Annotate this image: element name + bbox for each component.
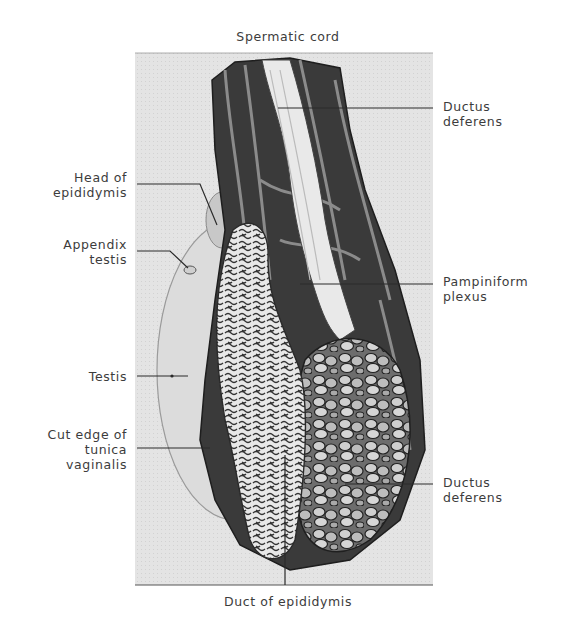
- label-testis: Testis: [20, 369, 127, 384]
- label-spermatic-cord: Spermatic cord: [200, 29, 376, 44]
- label-head-of-epididymis: Head of epididymis: [20, 170, 127, 200]
- label-appendix-testis: Appendix testis: [20, 237, 127, 267]
- label-pampiniform-plexus: Pampiniform plexus: [443, 274, 568, 304]
- label-duct-of-epididymis: Duct of epididymis: [190, 594, 386, 609]
- anatomy-figure: Spermatic cord Head of epididymis Append…: [0, 0, 576, 630]
- label-cut-edge-tunica-vaginalis: Cut edge of tunica vaginalis: [10, 427, 127, 472]
- label-ductus-deferens-upper: Ductus deferens: [443, 99, 568, 129]
- label-ductus-deferens-lower: Ductus deferens: [443, 475, 568, 505]
- testis-illustration: [0, 0, 576, 630]
